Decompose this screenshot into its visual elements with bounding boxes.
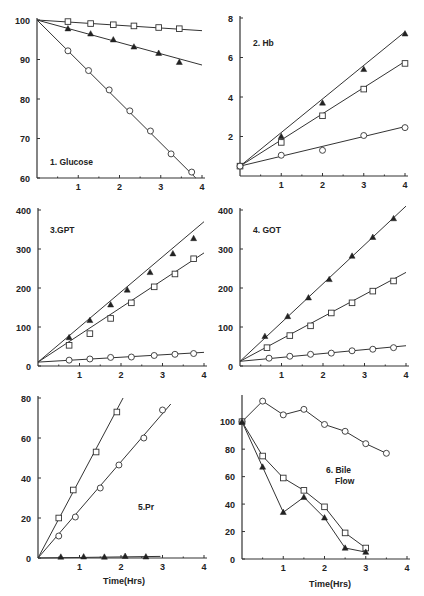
circle-marker: [402, 125, 408, 131]
x-tick-label: 1: [77, 562, 82, 572]
x-tick-label: 3: [363, 563, 368, 573]
circle-marker: [322, 421, 328, 427]
x-tick-label: 4: [404, 563, 409, 573]
y-tick-label: 8: [228, 14, 233, 24]
square-marker: [301, 488, 307, 494]
y-tick-label: 2: [228, 132, 233, 142]
triangle-marker: [122, 553, 128, 558]
x-tick-label: 2: [118, 562, 123, 572]
x-tick-label: 2: [118, 370, 123, 380]
square-marker: [191, 256, 197, 262]
triangle-marker: [260, 464, 266, 469]
square-marker: [108, 316, 114, 322]
panel-glucose: 1234607080901001. Glucose: [15, 16, 205, 193]
series-circle: [239, 398, 389, 456]
y-tick-label: 400: [16, 206, 31, 216]
square-marker: [329, 310, 335, 316]
y-tick-label: 400: [218, 206, 233, 216]
y-tick-label: 40: [21, 474, 31, 484]
square-marker: [65, 19, 71, 25]
circle-marker: [160, 407, 166, 413]
x-tick-label: 3: [160, 562, 165, 572]
square-marker: [264, 345, 270, 351]
circle-marker: [97, 485, 103, 491]
x-tick-label: 4: [201, 562, 206, 572]
circle-marker: [278, 152, 284, 158]
circle-marker: [287, 353, 293, 359]
square-marker: [402, 61, 408, 67]
square-marker: [93, 449, 99, 455]
square-marker: [87, 331, 93, 337]
y-tick-label: 100: [16, 323, 31, 333]
circle-marker: [189, 169, 195, 175]
y-tick-label: 6: [228, 53, 233, 63]
panel-title-glucose: 1. Glucose: [50, 157, 93, 167]
circle-marker: [87, 356, 93, 362]
y-tick-label: 90: [20, 55, 30, 65]
x-tick-label: 2: [117, 182, 122, 192]
circle-marker: [383, 450, 389, 456]
fit-line: [38, 222, 204, 362]
circle-marker: [128, 354, 134, 360]
circle-marker: [56, 533, 62, 539]
circle-marker: [363, 441, 369, 447]
panel-got: 123401002003004004. GOT: [218, 206, 409, 381]
x-tick-label: 1: [77, 370, 82, 380]
square-marker: [129, 300, 135, 306]
x-tick-label: 1: [279, 180, 284, 190]
circle-marker: [141, 435, 147, 441]
y-tick-label: 0: [26, 362, 31, 372]
square-marker: [320, 113, 326, 119]
series-circle: [38, 404, 171, 558]
y-tick-label: 0: [26, 554, 31, 564]
circle-marker: [370, 346, 376, 352]
circle-marker: [116, 462, 122, 468]
triangle-marker: [326, 276, 332, 281]
y-tick-label: 70: [20, 134, 30, 144]
triangle-marker: [88, 31, 94, 36]
circle-marker: [191, 351, 197, 357]
panel-title-got: 4. GOT: [253, 225, 282, 235]
square-marker: [70, 487, 76, 493]
x-tick-label: 1: [279, 370, 284, 380]
circle-marker: [361, 133, 367, 139]
panel-title-pr: 5.Pr: [138, 502, 155, 512]
series-circle: [37, 20, 196, 178]
series-circle: [237, 125, 408, 170]
square-marker: [66, 343, 72, 349]
triangle-marker: [147, 269, 153, 274]
panel-title-hb: 2. Hb: [253, 38, 274, 48]
x-axis-title: Time(Hrs): [309, 579, 351, 589]
circle-marker: [237, 163, 243, 169]
x-tick-label: 3: [362, 370, 367, 380]
panel-bile-flow: 12340204060801006. BileFlowTime(Hrs): [220, 395, 410, 589]
square-marker: [322, 504, 328, 510]
circle-marker: [391, 345, 397, 351]
x-tick-label: 2: [320, 180, 325, 190]
square-marker: [280, 475, 286, 481]
y-tick-label: 60: [225, 472, 235, 482]
square-marker: [391, 278, 397, 284]
circle-marker: [106, 87, 112, 93]
x-tick-label: 3: [361, 180, 366, 190]
y-tick-label: 200: [16, 284, 31, 294]
y-tick-label: 100: [15, 16, 30, 26]
triangle-marker: [110, 37, 116, 42]
circle-marker: [328, 350, 334, 356]
circle-marker: [280, 412, 286, 418]
square-marker: [260, 453, 266, 459]
series-triangle: [239, 419, 369, 555]
triangle-marker: [349, 253, 355, 258]
y-tick-label: 80: [21, 394, 31, 404]
panel-title-bile-flow-line2: Flow: [335, 476, 355, 486]
panel-title-gpt: 3.GPT: [50, 225, 75, 235]
y-tick-label: 300: [16, 245, 31, 255]
y-tick-label: 60: [21, 434, 31, 444]
triangle-marker: [101, 554, 107, 559]
square-marker: [56, 515, 62, 521]
figure-canvas: 1234607080901001. Glucose 123424682. Hb …: [0, 0, 424, 596]
x-tick-label: 4: [402, 180, 407, 190]
triangle-marker: [81, 554, 87, 559]
square-marker: [177, 26, 183, 32]
x-tick-label: 2: [322, 563, 327, 573]
